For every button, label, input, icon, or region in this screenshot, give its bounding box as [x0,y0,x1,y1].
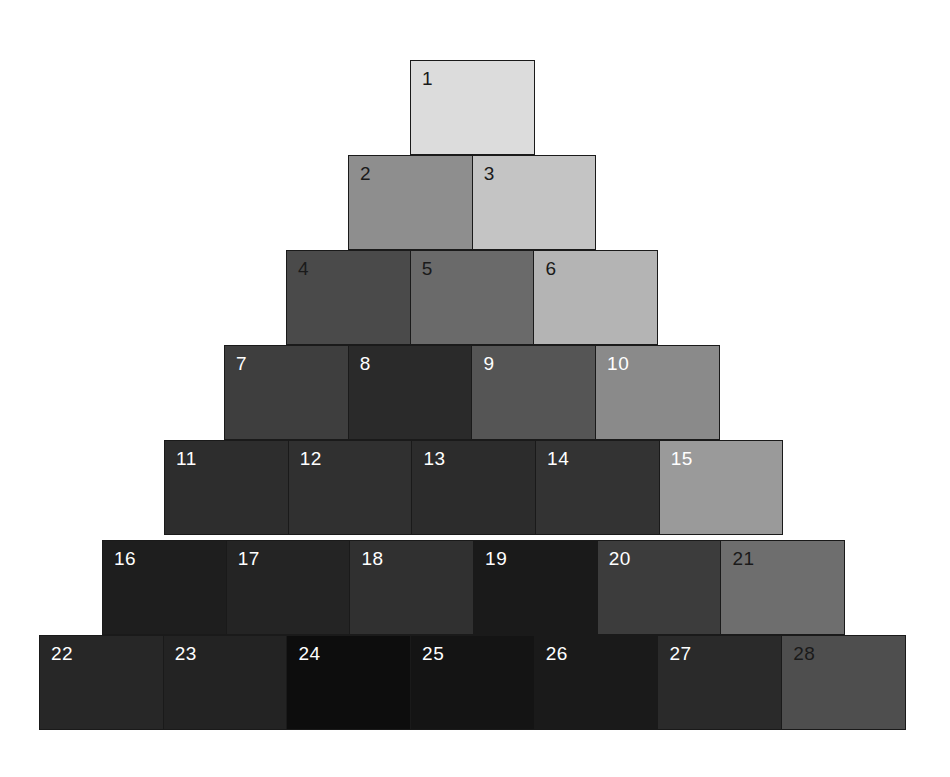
tile-label-2: 2 [360,164,371,183]
pyramid-row-2: 23 [348,155,595,250]
tile-label-4: 4 [298,259,309,278]
tile-label-25: 25 [422,644,444,663]
tile-label-15: 15 [671,449,693,468]
tile-21[interactable]: 21 [720,540,845,635]
tile-26[interactable]: 26 [534,635,659,730]
tile-20[interactable]: 20 [597,540,722,635]
tile-8[interactable]: 8 [348,345,473,440]
tile-24[interactable]: 24 [286,635,411,730]
tile-label-9: 9 [483,354,494,373]
tile-label-20: 20 [609,549,631,568]
tile-15[interactable]: 15 [659,440,784,535]
tile-label-1: 1 [422,69,433,88]
tile-16[interactable]: 16 [102,540,227,635]
tile-label-10: 10 [607,354,629,373]
tile-4[interactable]: 4 [286,250,411,345]
tile-label-27: 27 [669,644,691,663]
tile-label-13: 13 [423,449,445,468]
pyramid-row-6: 161718192021 [102,540,844,635]
tile-11[interactable]: 11 [164,440,289,535]
tile-1[interactable]: 1 [410,60,535,155]
pyramid-row-4: 78910 [224,345,719,440]
tile-label-21: 21 [732,549,754,568]
tile-label-7: 7 [236,354,247,373]
tile-27[interactable]: 27 [657,635,782,730]
tile-label-24: 24 [298,644,320,663]
tile-17[interactable]: 17 [226,540,351,635]
tile-label-19: 19 [485,549,507,568]
tile-10[interactable]: 10 [595,345,720,440]
tile-label-12: 12 [300,449,322,468]
pyramid-row-5: 1112131415 [164,440,782,535]
tile-label-11: 11 [176,449,197,468]
pyramid-row-7: 22232425262728 [39,635,905,730]
pyramid-row-1: 1 [410,60,534,155]
tile-label-23: 23 [175,644,197,663]
tile-25[interactable]: 25 [410,635,535,730]
tile-14[interactable]: 14 [535,440,660,535]
tile-5[interactable]: 5 [410,250,535,345]
tile-label-26: 26 [546,644,568,663]
tile-28[interactable]: 28 [781,635,906,730]
tile-18[interactable]: 18 [349,540,474,635]
tile-23[interactable]: 23 [163,635,288,730]
tile-label-17: 17 [238,549,260,568]
tile-label-18: 18 [361,549,383,568]
tile-6[interactable]: 6 [533,250,658,345]
tile-label-5: 5 [422,259,433,278]
tile-12[interactable]: 12 [288,440,413,535]
tile-19[interactable]: 19 [473,540,598,635]
tile-label-16: 16 [114,549,136,568]
tile-label-14: 14 [547,449,569,468]
tile-label-28: 28 [793,644,815,663]
pyramid-row-3: 456 [286,250,657,345]
tile-13[interactable]: 13 [411,440,536,535]
tile-2[interactable]: 2 [348,155,473,250]
tile-label-8: 8 [360,354,371,373]
tile-3[interactable]: 3 [472,155,597,250]
tile-9[interactable]: 9 [471,345,596,440]
pyramid-canvas: 1234567891011121314151617181920212223242… [0,0,950,777]
tile-22[interactable]: 22 [39,635,164,730]
tile-label-3: 3 [484,164,495,183]
tile-label-22: 22 [51,644,73,663]
tile-7[interactable]: 7 [224,345,349,440]
tile-label-6: 6 [545,259,556,278]
